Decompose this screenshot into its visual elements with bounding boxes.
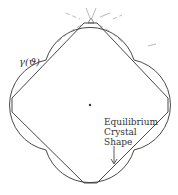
wulff-diagram: γ(ϑ) Equilibrium Crystal Shape bbox=[0, 0, 178, 195]
equilibrium-crystal-shape-label: Equilibrium Crystal Shape bbox=[104, 117, 158, 147]
ecs-label-line-3: Shape bbox=[104, 137, 158, 147]
top-facet-marker bbox=[88, 18, 94, 23]
faint-construction-lines bbox=[58, 8, 156, 46]
arrow-icon bbox=[111, 146, 117, 164]
equilibrium-crystal-shape bbox=[12, 23, 168, 183]
gamma-label: γ(ϑ) bbox=[19, 57, 40, 67]
ecs-label-line-2: Crystal bbox=[104, 127, 158, 137]
ecs-label-line-1: Equilibrium bbox=[104, 117, 158, 127]
center-point bbox=[89, 104, 91, 106]
diagram-canvas bbox=[0, 0, 178, 195]
